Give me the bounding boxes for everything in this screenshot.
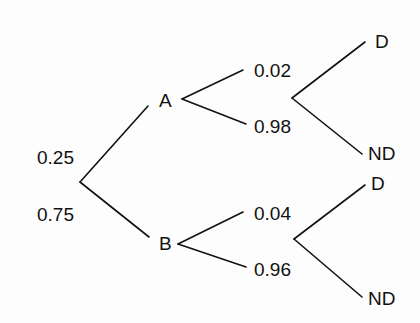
node-a: A xyxy=(159,91,172,110)
probability-tree-diagram: 0.25 0.75 A B 0.02 0.98 0.04 0.96 D ND D… xyxy=(0,0,420,323)
outcome-a-nd: ND xyxy=(368,144,395,163)
outcome-b-nd: ND xyxy=(368,289,395,308)
branch-a-d xyxy=(292,42,365,98)
outcome-b-d: D xyxy=(371,174,385,193)
branch-root-b xyxy=(80,182,149,237)
branch-b-d xyxy=(294,185,365,239)
node-b: B xyxy=(159,234,172,253)
branch-b-lower xyxy=(178,244,246,267)
branch-root-a xyxy=(80,106,148,182)
prob-a-label: 0.25 xyxy=(37,148,74,167)
prob-b-d-label: 0.04 xyxy=(254,204,291,223)
branch-b-nd xyxy=(294,239,362,297)
branch-b-upper xyxy=(178,212,243,244)
branch-a-lower xyxy=(182,99,246,124)
prob-b-label: 0.75 xyxy=(37,205,74,224)
branch-a-upper xyxy=(182,70,243,99)
outcome-a-d: D xyxy=(375,32,389,51)
branch-a-nd xyxy=(292,98,362,154)
prob-b-nd-label: 0.96 xyxy=(254,260,291,279)
prob-a-d-label: 0.02 xyxy=(254,61,291,80)
prob-a-nd-label: 0.98 xyxy=(254,117,291,136)
